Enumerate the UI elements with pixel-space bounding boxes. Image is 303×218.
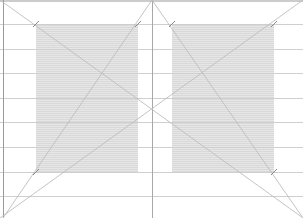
diagram-canvas <box>0 0 303 218</box>
layout-diagram <box>0 0 303 218</box>
